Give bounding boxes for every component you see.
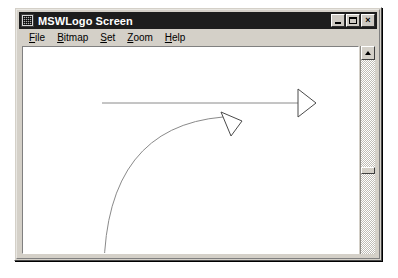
scrollbar-thumb[interactable] [361,167,375,174]
title-bar[interactable]: MSWLogo Screen × [19,12,377,29]
menu-item-zoom[interactable]: Zoom [121,32,159,43]
window-controls: × [331,14,375,27]
menu-label-zoom: oom [133,32,152,43]
close-button[interactable]: × [361,14,375,27]
menu-label-bitmap: itmap [64,32,88,43]
scroll-up-arrow-icon [365,51,371,55]
turtle-graphics-svg [23,47,359,254]
menu-accel-bitmap: B [57,32,64,43]
menu-bar: File Bitmap Set Zoom Help [19,30,377,45]
turtle-arc-end [221,112,242,136]
client-area [22,46,375,254]
window-title: MSWLogo Screen [38,15,331,27]
maximize-button[interactable] [346,14,360,27]
menu-label-set: et [107,32,115,43]
menu-item-bitmap[interactable]: Bitmap [51,32,94,43]
menu-item-set[interactable]: Set [94,32,121,43]
menu-accel-set: S [100,32,107,43]
menu-item-help[interactable]: Help [159,32,192,43]
menu-label-file: ile [35,32,45,43]
mswlogo-screen-window: MSWLogo Screen × File Bitmap Set Zoom He… [14,7,382,261]
close-icon: × [362,15,374,26]
scroll-up-button[interactable] [361,46,375,60]
quarter-arc-pen-path [104,117,223,254]
minimize-button[interactable] [331,14,345,27]
vertical-scrollbar[interactable] [360,46,375,254]
screenshot-root: MSWLogo Screen × File Bitmap Set Zoom He… [0,0,398,278]
turtle-right [298,89,316,117]
menu-accel-help: H [165,32,172,43]
menu-label-help: elp [172,32,185,43]
menu-item-file[interactable]: File [23,32,51,43]
mswlogo-app-icon[interactable] [21,14,34,27]
logo-drawing-canvas[interactable] [22,46,359,254]
window-inner-bevel: MSWLogo Screen × File Bitmap Set Zoom He… [16,9,380,259]
